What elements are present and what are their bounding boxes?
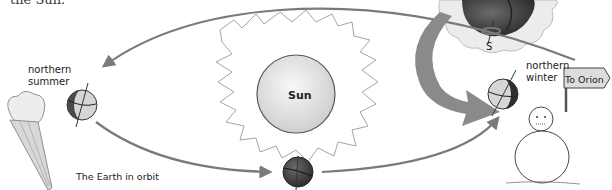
inset-cloud: [439, 0, 557, 53]
caption-fragment: the Sun.: [10, 0, 65, 8]
ice-cream-cone: [8, 91, 52, 190]
label-line: northern: [526, 60, 586, 72]
orbit-diagram: the Sun. northern summer northern winter…: [0, 0, 612, 190]
label-line: northern: [28, 64, 88, 76]
globe-bottom: [283, 156, 313, 190]
orbit-arrow-bottom-left: [96, 122, 270, 172]
globe-northern-summer: [67, 83, 97, 127]
signpost-label: To Orion: [565, 75, 604, 86]
diagram-title: The Earth in orbit: [76, 172, 159, 183]
label-south-pole: S: [486, 41, 492, 53]
label-sun: Sun: [288, 90, 312, 103]
label-line: summer: [28, 76, 88, 88]
orbit-arrow-bottom-right: [322, 118, 498, 172]
snowman: [506, 107, 580, 184]
label-northern-summer: northern summer: [28, 64, 88, 87]
